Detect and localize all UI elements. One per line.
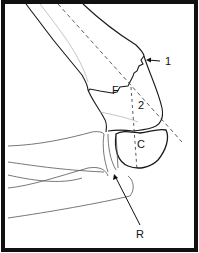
label-c: C bbox=[137, 138, 145, 150]
border bbox=[3, 2, 196, 250]
label-f: F bbox=[112, 84, 119, 96]
label-r: R bbox=[136, 228, 144, 240]
anatomical-diagram: 1 F 2 C R bbox=[0, 0, 199, 253]
label-1: 1 bbox=[165, 55, 171, 67]
figure-frame: 1 F 2 C R bbox=[0, 0, 199, 253]
label-2: 2 bbox=[138, 99, 144, 111]
